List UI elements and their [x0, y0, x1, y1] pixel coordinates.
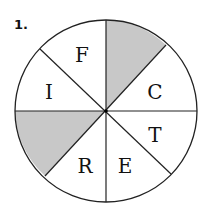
label-r: R [77, 154, 93, 178]
center-dot [104, 109, 108, 113]
label-i: I [45, 80, 53, 104]
label-t: T [148, 123, 162, 147]
label-e: E [118, 154, 133, 178]
label-f: F [75, 43, 89, 67]
spinner-diagram: F C T E R I [0, 0, 206, 217]
label-c: C [147, 80, 162, 104]
